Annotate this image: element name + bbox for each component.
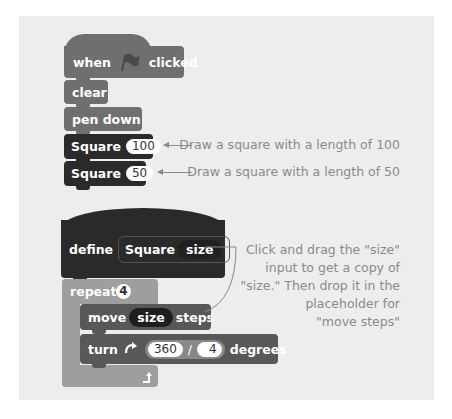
annotation-line: Click and drag the "size" [241,241,400,259]
annotation-line: input to get a copy of [241,259,400,277]
drag-connector-line [0,0,452,419]
annotation-line: placeholder for [241,295,400,313]
annotation-line: "size." Then drop it in the [241,277,400,295]
annotation-line: "move steps" [241,313,400,331]
annotation-drag-size: Click and drag the "size" input to get a… [241,241,400,331]
